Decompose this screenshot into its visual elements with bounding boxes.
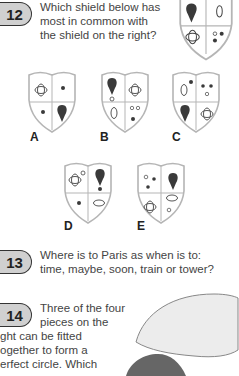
text-line: pieces on the: [40, 315, 125, 329]
text-line: Which shield below has: [40, 0, 160, 14]
option-label-c: C: [172, 130, 181, 144]
question-text-continued: ght can be fitted ogether to form a erfe…: [0, 329, 97, 371]
text-line: time, maybe, soon, train or tower?: [40, 262, 214, 276]
option-label-e: E: [137, 219, 145, 233]
text-line: ght can be fitted: [0, 329, 97, 343]
option-label-a: A: [30, 130, 39, 144]
option-label-d: D: [64, 219, 73, 233]
question-number-badge: 14: [0, 303, 32, 327]
text-line: most in common with: [40, 14, 160, 28]
text-line: Where is to Paris as when is to:: [40, 248, 214, 262]
question-text: Three of the four pieces on the: [40, 301, 125, 329]
question-text: Which shield below has most in common wi…: [40, 0, 160, 42]
option-label-b: B: [100, 130, 109, 144]
text-line: erfect circle. Which: [0, 357, 97, 371]
circle-piece-light[interactable]: [134, 292, 238, 358]
circle-piece-dark[interactable]: [126, 354, 186, 376]
shield-option-d[interactable]: [62, 163, 114, 225]
question-text: Where is to Paris as when is to: time, m…: [40, 248, 214, 276]
question-number-badge: 13: [0, 250, 32, 274]
text-line: the shield on the right?: [40, 28, 160, 42]
shield-option-c[interactable]: [170, 72, 222, 134]
reference-shield: [178, 0, 234, 62]
question-number-badge: 12: [0, 2, 32, 26]
shield-option-a[interactable]: [26, 72, 78, 134]
text-line: ogether to form a: [0, 343, 97, 357]
shield-option-e[interactable]: [135, 163, 187, 225]
shield-option-b[interactable]: [99, 72, 151, 134]
text-line: Three of the four: [40, 301, 125, 315]
